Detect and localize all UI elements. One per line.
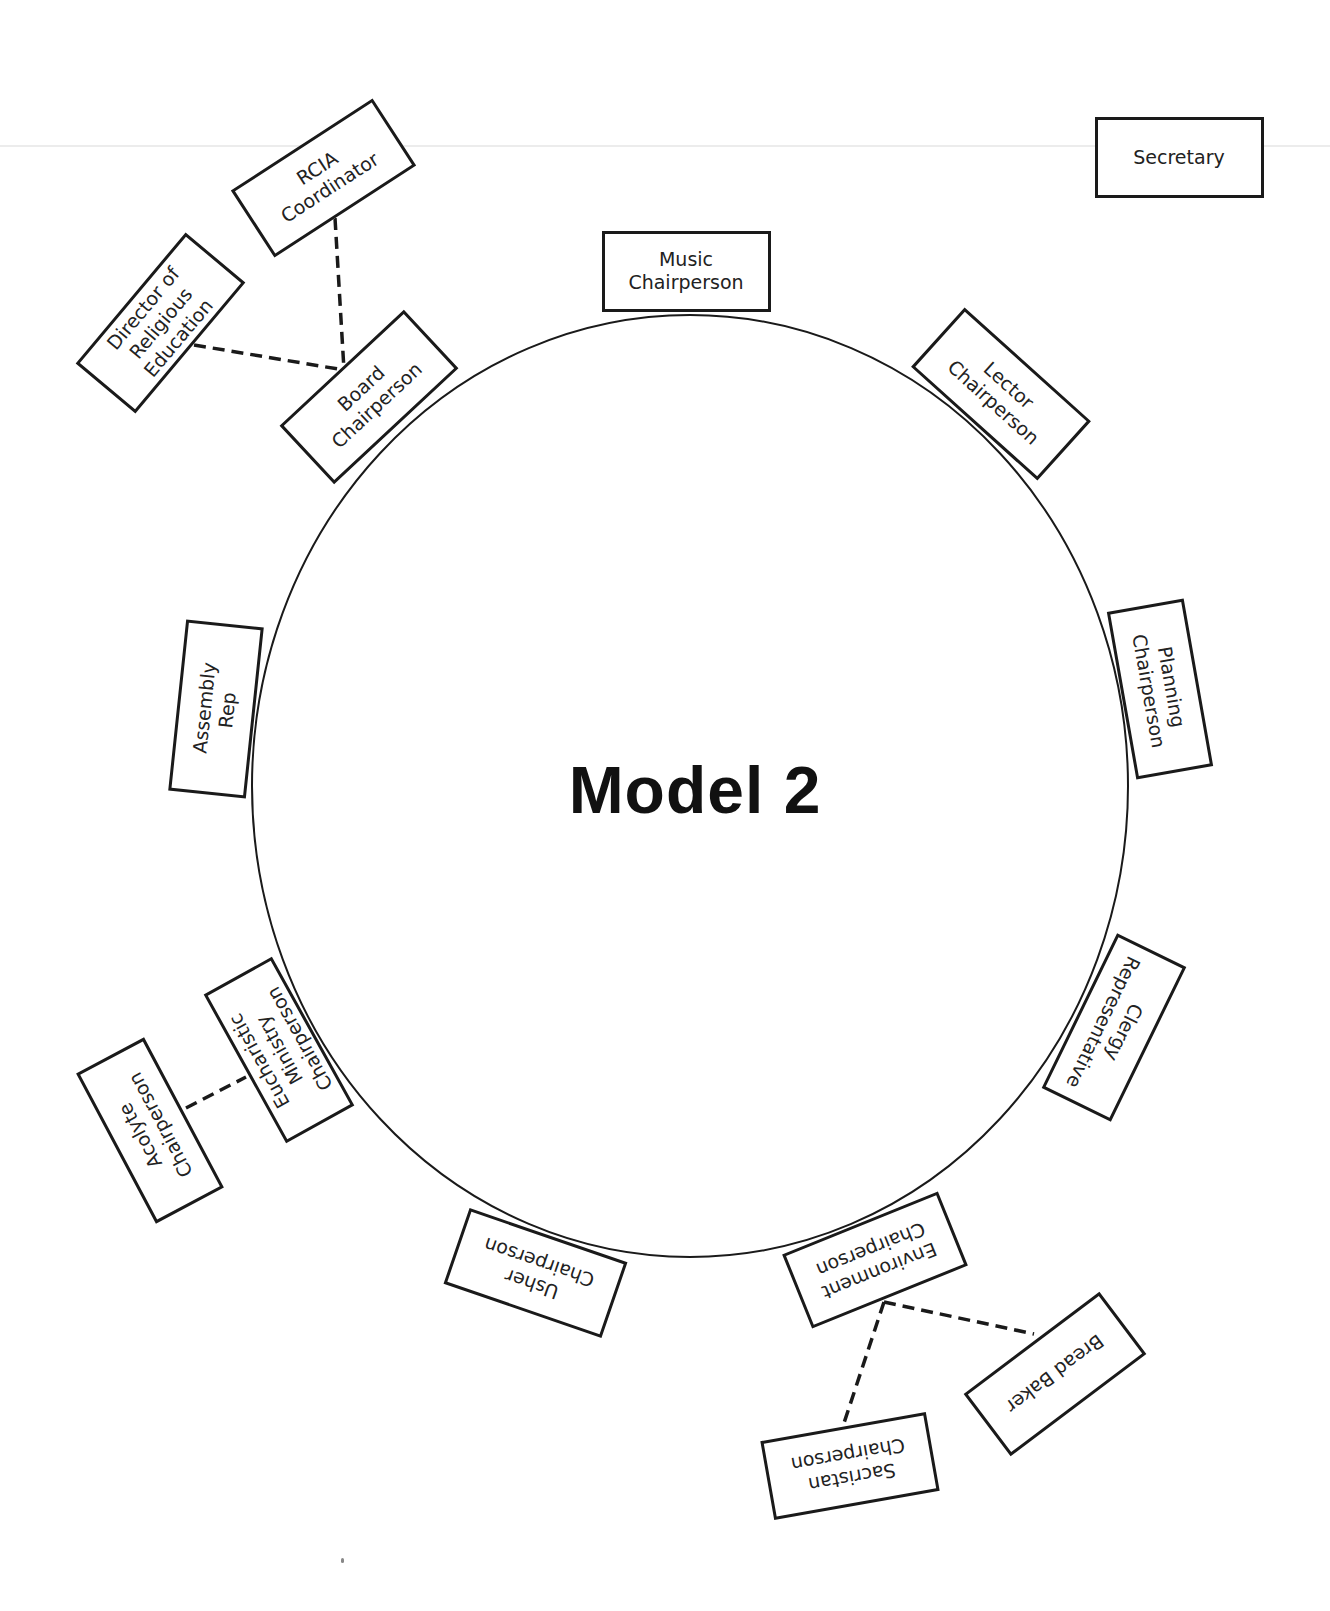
connector-environment-to-bread-baker [884, 1302, 1034, 1334]
role-label: Music Chairperson [628, 248, 743, 294]
diagram-title: Model 2 [560, 752, 830, 828]
role-label: Secretary [1133, 146, 1224, 169]
role-label: Sacristan Chairperson [789, 1433, 910, 1498]
role-label: Assembly Rep [188, 661, 243, 757]
connector-director-to-board [194, 345, 344, 370]
role-label: Planning Chairperson [1127, 628, 1192, 749]
role-box-music: Music Chairperson [602, 231, 771, 312]
scan-speck [341, 1558, 344, 1563]
connector-rcia-to-board [335, 218, 344, 370]
role-box-secretary: Secretary [1095, 117, 1264, 198]
connector-acolyte-to-eucharistic [186, 1077, 246, 1108]
connector-environment-to-sacristan [843, 1302, 884, 1426]
